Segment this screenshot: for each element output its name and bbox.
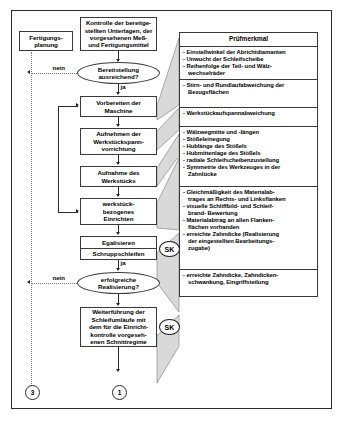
arrowhead-nein-bottom xyxy=(27,280,30,284)
pruefmerkmal-table-header: Prüfmerkmal xyxy=(180,33,317,47)
arrowhead-schruppschleifen-to-erfolgreiche xyxy=(116,268,120,271)
page-connector-3: 3 xyxy=(25,385,40,400)
arrowhead-feedback-bottom xyxy=(76,209,79,213)
list-item: - Werkstückaufspannabweichung xyxy=(183,110,314,117)
node-erfolgreiche-line-1: erfolgreiche xyxy=(101,276,136,283)
feedback-loop-bottom xyxy=(58,212,78,213)
list-item: - erreichte Zahndicke (Realisierung der … xyxy=(183,231,314,252)
node-weiterfuehrung-line-5: enen Schnittregime xyxy=(83,338,154,345)
table-row: - erreichte Zahndicke, Zahndicken- schwa… xyxy=(180,270,317,296)
edge-weiterfuehrung-to-connector xyxy=(118,347,119,371)
arrowhead-spann-to-werkstueck xyxy=(116,162,120,165)
node-aufnahme-werkstueck: Aufnahme des Werkstücks xyxy=(80,166,157,187)
node-bereitstellung-line-1: Bereitstellung xyxy=(98,66,139,73)
table-row: - Einstellwinkel der Abrichtdiamanten - … xyxy=(180,47,317,80)
node-fertigungsplanung-line-1: Fertigungs- xyxy=(22,34,70,41)
badge-sk-egalisieren: SK xyxy=(159,241,180,257)
list-item: - Hubmittenlage des Stößels xyxy=(183,150,314,157)
arrowhead-werkstueck-to-einrichten xyxy=(116,194,120,197)
table-row: - Stirn- und Rundlaufabweichung der Bezu… xyxy=(180,80,317,107)
node-werkstueckbezogenes-einrichten: werkstück- bezogenes Einrichten xyxy=(80,198,157,225)
node-schruppschleifen: Schruppschleifen xyxy=(81,249,156,260)
list-item: - visuelle Schliffbild- und Schleif- bra… xyxy=(183,203,314,217)
node-fertigungsplanung-line-2: planung xyxy=(22,41,70,48)
node-erfolgreiche-line-2: Realisierung? xyxy=(98,283,139,290)
node-egalisieren: Egalisieren xyxy=(81,237,156,249)
edge-label-nein-bottom: nein xyxy=(52,275,65,282)
arrowhead-nein-top xyxy=(27,70,30,74)
node-kontrolle-line-4: und Fertigungsmittel xyxy=(83,41,154,48)
node-weiterfuehrung-line-4: kontrolle vorgeseh- xyxy=(83,331,154,338)
table-row: - Gleichmäßigkeit des Materialab- trages… xyxy=(180,187,317,270)
node-bereitstellung-line-2: ausreichend? xyxy=(98,73,138,80)
arrowhead-bereitstellung-to-vorbereiten xyxy=(116,92,120,95)
edge-label-ja-top: ja xyxy=(120,84,126,91)
table-row: - Wälzwegmitte und -längen - Stößeleineg… xyxy=(180,127,317,186)
arrowhead-vorbereiten-to-spann xyxy=(116,124,120,127)
node-werkstueck-line-2: Werkstücks xyxy=(83,177,154,184)
list-item: - Symmetrie des Werkzeuges in der Zahnlü… xyxy=(183,164,314,178)
table-row: - Werkstückaufspannabweichung xyxy=(180,108,317,127)
list-item: - radiale Schleifscheibenzustellung xyxy=(183,157,314,164)
page-connector-3-label: 3 xyxy=(31,389,35,396)
node-werkstueck-line-1: Aufnahme des xyxy=(83,169,154,176)
list-item: - Hublänge des Stößels xyxy=(183,143,314,150)
arrowhead-feedback-top xyxy=(76,103,79,107)
node-spann-line-2: Werkstückspann- xyxy=(83,138,154,145)
feedback-spine-dotted xyxy=(31,52,32,392)
list-item: - Wälzwegmitte und -längen xyxy=(183,129,314,136)
node-weiterfuehrung-line-1: Weiterführung der xyxy=(83,308,154,315)
arrowhead-einrichten-to-egalisieren xyxy=(116,232,120,235)
node-fertigungsplanung: Fertigungs- planung xyxy=(19,31,73,51)
node-weiterfuehrung-line-2: Schleifumläufe mit xyxy=(83,316,154,323)
page-connector-1: 1 xyxy=(112,385,127,400)
node-weiterfuehrung-schleifumlaeufe: Weiterführung der Schleifumläufe mit dem… xyxy=(80,307,157,347)
node-kontrolle-line-2: stellten Unterlagen, der xyxy=(83,27,154,34)
node-weiterfuehrung-line-3: dem für die Einricht- xyxy=(83,323,154,330)
node-kontrolle-line-1: Kontrolle der bereitge- xyxy=(83,19,154,26)
node-erfolgreiche-realisierung-decision: erfolgreiche Realisierung? xyxy=(77,272,160,294)
node-aufnehmen-spannvorrichtung: Aufnehmen der Werkstückspann- vorrichtun… xyxy=(80,128,157,155)
arrowhead-erfolgreiche-to-weiterfuehrung xyxy=(116,303,120,306)
page-connector-1-label: 1 xyxy=(118,389,122,396)
node-spann-line-3: vorrichtung xyxy=(83,145,154,152)
arrowhead-weiterfuehrung-to-connector xyxy=(116,369,120,372)
list-item: - Stirn- und Rundlaufabweichung der Bezu… xyxy=(183,82,314,96)
node-kontrolle-line-3: vorgesehenen Meß- xyxy=(83,34,154,41)
list-item: - Gleichmäßigkeit des Materialab- trages… xyxy=(183,189,314,203)
node-vorbereiten-line-1: Vorbereiten der xyxy=(83,99,154,106)
badge-sk-weiterfuehrung-label: SK xyxy=(164,324,174,331)
list-item: - Unwucht der Schleifscheibe xyxy=(183,56,314,63)
node-bereitstellung-decision: Bereitstellung ausreichend? xyxy=(77,62,160,84)
node-einrichten-line-3: Einrichten xyxy=(83,215,154,222)
edge-nein-top xyxy=(31,73,77,74)
node-vorbereiten-line-2: Maschine xyxy=(83,107,154,114)
node-spann-line-1: Aufnehmen der xyxy=(83,130,154,137)
feedback-loop-top xyxy=(58,106,78,107)
edge-label-ja-bottom: ja xyxy=(120,260,126,267)
feedback-loop-vertical xyxy=(58,106,59,212)
pruefmerkmal-table: Prüfmerkmal - Einstellwinkel der Abricht… xyxy=(179,32,318,297)
node-egalisieren-schruppschleifen: Egalisieren Schruppschleifen xyxy=(80,236,157,260)
list-item: - Reihenfolge der Teil- und Wälz- wechse… xyxy=(183,63,314,77)
node-kontrolle-unterlagen: Kontrolle der bereitge- stellten Unterla… xyxy=(80,17,157,51)
node-einrichten-line-1: werkstück- xyxy=(83,200,154,207)
list-item: - Stößeleinegung xyxy=(183,136,314,143)
badge-sk-egalisieren-label: SK xyxy=(164,246,174,253)
node-vorbereiten-maschine: Vorbereiten der Maschine xyxy=(80,96,157,117)
badge-sk-weiterfuehrung: SK xyxy=(159,319,180,335)
list-item: - erreichte Zahndicke, Zahndicken- schwa… xyxy=(183,272,314,286)
list-item: - Materialabtrag an allen Flanken- fläch… xyxy=(183,217,314,231)
diagram-root: Fertigungs- planung Kontrolle der bereit… xyxy=(0,0,341,428)
list-item: - Einstellwinkel der Abrichtdiamanten xyxy=(183,49,314,56)
edge-label-nein-top: nein xyxy=(52,65,65,72)
node-einrichten-line-2: bezogenes xyxy=(83,208,154,215)
edge-nein-bottom xyxy=(31,283,77,284)
